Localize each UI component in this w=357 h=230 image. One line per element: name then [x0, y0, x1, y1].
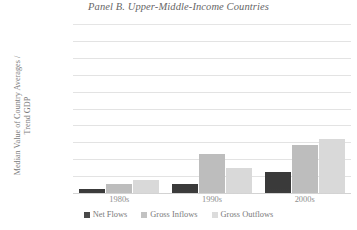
x-axis-labels: 1980s1990s2000s [73, 195, 351, 204]
bar [79, 189, 105, 193]
legend-swatch-icon [84, 212, 90, 218]
bar [319, 139, 345, 193]
bar-group [258, 24, 351, 193]
plot-area: 20%18%16%14%12%10%8%6%4%2%0% [73, 24, 351, 193]
legend-item-label: Gross Inflows [150, 210, 197, 219]
legend-item[interactable]: Gross Inflows [141, 210, 197, 219]
bar-group [73, 24, 166, 193]
legend-item[interactable]: Net Flows [84, 210, 128, 219]
chart-figure: Panel B. Upper-Middle-Income Countries M… [0, 0, 357, 230]
chart-legend: Net FlowsGross InflowsGross Outflows [0, 210, 357, 219]
y-axis-title: Median Value of Country Averages / Trend… [13, 31, 32, 201]
x-axis-tick-label: 1980s [73, 195, 166, 204]
chart-title: Panel B. Upper-Middle-Income Countries [0, 1, 357, 12]
bar [172, 184, 198, 193]
bar-groups [73, 24, 351, 193]
bar-group [166, 24, 259, 193]
bar [133, 180, 159, 193]
bar [226, 168, 252, 193]
bar [199, 154, 225, 193]
bar [292, 145, 318, 193]
bar [265, 172, 291, 193]
legend-item[interactable]: Gross Outflows [212, 210, 274, 219]
legend-item-label: Net Flows [93, 210, 128, 219]
legend-item-label: Gross Outflows [221, 210, 274, 219]
legend-swatch-icon [212, 212, 218, 218]
x-axis-tick-label: 1990s [166, 195, 259, 204]
legend-swatch-icon [141, 212, 147, 218]
bar [106, 184, 132, 193]
x-axis-tick-label: 2000s [258, 195, 351, 204]
gridline [73, 193, 351, 194]
